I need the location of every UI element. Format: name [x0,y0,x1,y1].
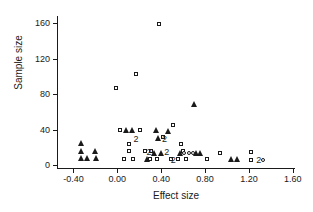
data-point-square [127,142,131,146]
data-point-square [134,72,138,76]
data-point-square [179,142,183,146]
x-tick-label: 0.40 [152,175,170,184]
data-point-square [118,128,122,132]
data-point-square [184,157,188,161]
y-axis-line [57,16,58,168]
data-point-square [131,157,135,161]
data-point-triangle [191,101,197,107]
scatter-plot-figure: Sample size Effect size 04080120160 -0.4… [0,0,313,212]
x-axis-label: Effect size [57,190,295,201]
data-point-triangle [92,148,98,154]
data-point-triangle [155,135,161,141]
x-tick-label: 0.80 [196,175,214,184]
data-point-square [249,150,253,154]
data-point-square [176,157,180,161]
data-point-triangle [144,156,150,162]
data-point-square [171,123,175,127]
data-point-square [114,86,118,90]
data-point-count-label: 2 [162,134,167,143]
data-point-count-label: 2 [147,148,152,157]
x-tick-mark [161,169,162,173]
y-tick-label: 40 [40,125,50,134]
data-point-triangle [153,127,159,133]
y-tick-label: 0 [45,161,50,170]
y-axis-label: Sample size [13,8,24,118]
y-tick-mark [53,130,57,131]
x-tick-mark [205,169,206,173]
x-tick-mark [117,169,118,173]
y-tick-label: 120 [35,54,50,63]
y-tick-mark [53,23,57,24]
x-tick-mark [73,169,74,173]
data-point-square [205,157,209,161]
y-tick-mark [53,165,57,166]
data-point-triangle [197,150,203,156]
x-tick-mark [293,169,294,173]
data-point-triangle [78,148,84,154]
data-point-square [138,128,142,132]
data-point-count-label: 2 [171,156,176,165]
plot-area: 04080120160 -0.400.000.400.801.201.60 22… [57,16,295,168]
y-tick-mark [53,94,57,95]
data-point-triangle [84,155,90,161]
data-point-square [249,158,253,162]
data-point-square [122,157,126,161]
x-tick-mark [249,169,250,173]
x-tick-label: 0.00 [109,175,127,184]
data-point-count-label: 2 [256,156,261,165]
data-point-count-label: 2 [133,134,138,143]
y-tick-mark [53,59,57,60]
data-point-triangle [234,156,240,162]
data-point-square [157,22,161,26]
x-tick-label: 1.20 [240,175,258,184]
data-point-triangle [93,155,99,161]
data-point-circle [261,158,265,162]
data-point-square [155,157,159,161]
data-point-square [218,151,222,155]
y-tick-label: 160 [35,19,50,28]
data-point-triangle [78,140,84,146]
x-axis-line [57,168,295,169]
data-point-triangle [177,150,183,156]
data-point-square [127,149,131,153]
data-point-triangle [129,127,135,133]
data-point-count-label: 2 [164,148,169,157]
data-point-circle [187,151,191,155]
x-tick-label: -0.40 [63,175,84,184]
y-tick-label: 80 [40,90,50,99]
x-tick-label: 1.60 [284,175,302,184]
